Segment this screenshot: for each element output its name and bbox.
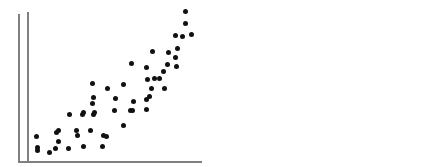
data-point bbox=[144, 65, 149, 70]
data-point bbox=[173, 55, 178, 60]
data-point bbox=[165, 62, 170, 67]
data-point bbox=[47, 150, 52, 155]
data-point bbox=[130, 108, 135, 113]
data-point bbox=[183, 21, 188, 26]
data-point bbox=[90, 81, 95, 86]
data-point bbox=[189, 32, 194, 37]
data-point bbox=[166, 50, 171, 55]
data-point bbox=[81, 110, 86, 115]
data-point bbox=[112, 108, 117, 113]
data-point bbox=[90, 101, 95, 106]
left-plot-area bbox=[0, 0, 223, 167]
right-y-axis bbox=[27, 12, 29, 161]
data-point bbox=[183, 9, 188, 14]
data-point bbox=[129, 61, 134, 66]
data-point bbox=[105, 86, 110, 91]
data-point bbox=[150, 49, 155, 54]
data-point bbox=[173, 33, 178, 38]
data-point bbox=[104, 134, 109, 139]
data-point bbox=[113, 96, 118, 101]
data-point bbox=[152, 76, 157, 81]
right-x-axis bbox=[27, 161, 202, 163]
data-point bbox=[147, 94, 152, 99]
data-point bbox=[144, 107, 149, 112]
left-scatterplot-panel bbox=[0, 0, 223, 167]
data-point bbox=[121, 82, 126, 87]
data-point bbox=[180, 34, 185, 39]
right-plot-area bbox=[223, 0, 446, 167]
data-point bbox=[88, 128, 93, 133]
data-point bbox=[149, 86, 154, 91]
data-point bbox=[56, 139, 61, 144]
data-point bbox=[75, 133, 80, 138]
data-point bbox=[162, 86, 167, 91]
data-point bbox=[131, 99, 136, 104]
data-point bbox=[157, 76, 162, 81]
data-point bbox=[34, 134, 39, 139]
data-point bbox=[54, 130, 59, 135]
data-point bbox=[145, 77, 150, 82]
scatterplot-figure bbox=[0, 0, 446, 167]
data-point bbox=[67, 112, 72, 117]
right-scatterplot-panel bbox=[223, 0, 446, 167]
data-point bbox=[175, 46, 180, 51]
data-point bbox=[74, 128, 79, 133]
left-y-axis bbox=[18, 14, 20, 161]
data-point bbox=[66, 146, 71, 151]
data-point bbox=[35, 145, 40, 150]
data-point bbox=[174, 64, 179, 69]
data-point bbox=[161, 69, 166, 74]
data-point bbox=[100, 144, 105, 149]
data-point bbox=[91, 95, 96, 100]
data-point bbox=[121, 123, 126, 128]
data-point bbox=[81, 144, 86, 149]
data-point bbox=[53, 146, 58, 151]
data-point bbox=[92, 110, 97, 115]
